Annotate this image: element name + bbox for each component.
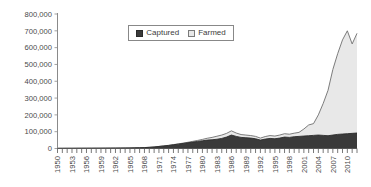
svg-text:1968: 1968 bbox=[140, 156, 149, 173]
svg-text:2007: 2007 bbox=[329, 156, 338, 173]
svg-text:1989: 1989 bbox=[242, 156, 251, 173]
legend-label-farmed: Farmed bbox=[198, 29, 226, 37]
x-axis: 1950195319561959196219651968197119741977… bbox=[53, 149, 357, 173]
svg-text:1962: 1962 bbox=[111, 156, 120, 173]
legend-swatch-captured-icon bbox=[136, 30, 143, 37]
svg-text:500,000: 500,000 bbox=[25, 60, 52, 69]
svg-text:1971: 1971 bbox=[155, 156, 164, 173]
svg-text:700,000: 700,000 bbox=[25, 27, 52, 36]
svg-text:200,000: 200,000 bbox=[25, 111, 52, 120]
legend-label-captured: Captured bbox=[146, 29, 179, 37]
legend-item-farmed: Farmed bbox=[188, 29, 226, 37]
svg-text:1950: 1950 bbox=[53, 156, 62, 173]
svg-text:2004: 2004 bbox=[314, 156, 323, 173]
svg-text:1980: 1980 bbox=[198, 156, 207, 173]
svg-text:600,000: 600,000 bbox=[25, 43, 52, 52]
svg-text:1986: 1986 bbox=[227, 156, 236, 173]
svg-text:1974: 1974 bbox=[169, 156, 178, 173]
svg-text:1995: 1995 bbox=[271, 156, 280, 173]
svg-text:400,000: 400,000 bbox=[25, 77, 52, 86]
svg-text:1977: 1977 bbox=[184, 156, 193, 173]
series-areas bbox=[58, 31, 358, 149]
legend-swatch-farmed-icon bbox=[188, 30, 195, 37]
chart-legend: Captured Farmed bbox=[128, 25, 234, 41]
svg-text:300,000: 300,000 bbox=[25, 94, 52, 103]
svg-text:0: 0 bbox=[48, 144, 52, 153]
svg-text:1956: 1956 bbox=[82, 156, 91, 173]
svg-text:1953: 1953 bbox=[68, 156, 77, 173]
svg-text:1959: 1959 bbox=[97, 156, 106, 173]
svg-text:1983: 1983 bbox=[213, 156, 222, 173]
svg-text:2001: 2001 bbox=[300, 156, 309, 173]
svg-text:1992: 1992 bbox=[256, 156, 265, 173]
svg-text:1965: 1965 bbox=[126, 156, 135, 173]
svg-text:800,000: 800,000 bbox=[25, 10, 52, 19]
chart-container: 0100,000200,000300,000400,000500,000600,… bbox=[0, 0, 371, 187]
svg-text:2010: 2010 bbox=[343, 156, 352, 173]
svg-text:1998: 1998 bbox=[285, 156, 294, 173]
y-axis: 0100,000200,000300,000400,000500,000600,… bbox=[25, 10, 58, 154]
legend-item-captured: Captured bbox=[136, 29, 179, 37]
svg-text:100,000: 100,000 bbox=[25, 127, 52, 136]
